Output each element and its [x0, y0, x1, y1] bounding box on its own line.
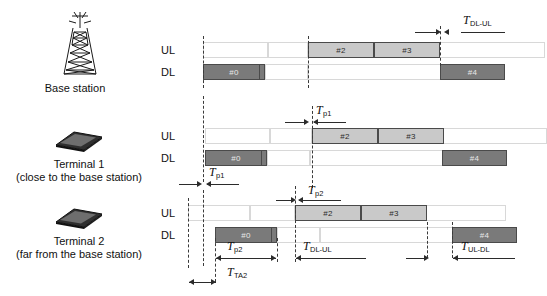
t-p1-upper-arrow-line	[285, 122, 305, 123]
block-divider	[261, 151, 262, 165]
t-p1-lower-label: Tp1	[209, 166, 224, 180]
t2-dl-block-0: #0	[215, 227, 277, 243]
t-p2-lower-span-line	[216, 258, 276, 259]
bs-dl-block-4: #4	[440, 64, 505, 80]
t-subscript: p2	[234, 245, 242, 254]
mobile-phone-icon	[50, 205, 108, 231]
block-label: #2	[336, 46, 345, 55]
terminal-2-sub: (far from the base station)	[0, 248, 158, 261]
t-p2-lower-arrowhead-right	[271, 255, 276, 261]
grid-cell	[250, 205, 295, 221]
block-divider	[259, 65, 260, 79]
t2-ul-block-3: #3	[361, 205, 427, 221]
t-ta2-label: TTA2	[227, 266, 247, 280]
t-p2-upper-arrowhead-left	[298, 197, 303, 203]
t-p1-lower-arrowhead-right	[197, 181, 202, 187]
t-p2-lower-arrowhead-left	[216, 255, 221, 261]
t-p1-upper-arrowhead-left	[313, 119, 318, 125]
t-ta2-arrowhead-right	[211, 279, 216, 285]
block-label: #3	[406, 132, 415, 141]
bs-ul-row-label: UL	[161, 45, 175, 56]
t-ul-dl-gap-arrowhead	[424, 255, 429, 261]
t-p1-lower-arrowhead-left	[206, 181, 211, 187]
grid-cell	[308, 64, 443, 80]
bs-dl-block-0: #0	[203, 64, 265, 80]
block-label: #2	[323, 209, 332, 218]
t-p2-upper-arrowhead-right	[291, 197, 296, 203]
bs-ul-block-3: #3	[374, 42, 440, 58]
t-p2-upper-label: Tp2	[308, 184, 323, 198]
terminal-2-label: Terminal 2 (far from the base station)	[0, 235, 158, 261]
block-label: #4	[468, 68, 477, 77]
t-subscript: DL-UL	[470, 19, 492, 28]
t-dl-ul-top-label: TDL-UL	[463, 14, 491, 28]
t-subscript: p1	[216, 171, 224, 180]
t2-ul-row-label: UL	[161, 208, 175, 219]
t2-dl-row-label: DL	[161, 230, 175, 241]
t-symbol: T	[461, 239, 468, 253]
terminal-1-sub: (close to the base station)	[0, 171, 158, 184]
t1-dl-block-4: #4	[442, 150, 507, 166]
base-station-name: Base station	[0, 82, 150, 95]
guide-t2-ul-end	[427, 222, 428, 258]
block-label: #3	[389, 209, 398, 218]
bs-dl-row-label: DL	[161, 67, 175, 78]
t-symbol: T	[316, 103, 323, 117]
t1-ul-block-2: #2	[312, 128, 378, 144]
block-label: #3	[402, 46, 411, 55]
t-dl-ul-top-arrow-line	[415, 32, 437, 33]
grid-cell	[267, 150, 310, 166]
grid-cell	[203, 42, 268, 58]
t-subscript: p2	[315, 189, 323, 198]
t1-ul-row-label: UL	[161, 131, 175, 142]
t-p1-lower-underline	[207, 184, 239, 185]
t2-ul-block-2: #2	[295, 205, 361, 221]
terminal-1-name: Terminal 1	[0, 158, 158, 171]
t-subscript: p1	[323, 109, 331, 118]
t-dl-ul-top-underline	[461, 32, 505, 33]
guide-t2-dl4-start	[452, 222, 453, 258]
block-label: #0	[229, 68, 238, 77]
terminal-1-label: Terminal 1 (close to the base station)	[0, 158, 158, 184]
t-symbol: T	[303, 239, 310, 253]
block-label: #2	[340, 132, 349, 141]
t-ul-dl-bottom-span-line	[453, 258, 515, 259]
guide-t2-left-extreme	[188, 198, 189, 268]
t1-dl-row-label: DL	[161, 153, 175, 164]
t-p2-upper-underline	[299, 200, 341, 201]
terminal-2-name: Terminal 2	[0, 235, 158, 248]
base-station-label: Base station	[0, 82, 150, 95]
block-label: #0	[231, 154, 240, 163]
t-subscript: DL-UL	[310, 245, 332, 254]
t-symbol: T	[308, 183, 315, 197]
grid-cell	[270, 128, 312, 144]
t-p2-lower-label: Tp2	[227, 240, 242, 254]
block-label: #4	[470, 154, 479, 163]
t-p1-upper-label: Tp1	[316, 104, 331, 118]
t-ul-dl-gap-line	[406, 258, 426, 259]
grid-cell	[205, 128, 270, 144]
t-p2-upper-arrow-line	[276, 200, 292, 201]
t-p1-lower-arrow-line	[179, 184, 198, 185]
guide-bs-ul-start	[308, 36, 309, 88]
block-label: #0	[241, 231, 250, 240]
t-dl-ul-bottom-span-line	[296, 258, 366, 259]
t-dl-ul-top-arrowhead-left	[444, 29, 449, 35]
t-dl-ul-bottom-arrowhead-left	[296, 255, 301, 261]
t-p1-upper-underline	[314, 122, 346, 123]
bs-ul-block-2: #2	[308, 42, 374, 58]
guide-bs-frame-start-low	[203, 190, 204, 266]
t-symbol: T	[227, 265, 234, 279]
t-ul-dl-bottom-label: TUL-DL	[461, 240, 489, 254]
t-subscript: UL-DL	[468, 245, 490, 254]
t-ta2-arrowhead-left	[189, 279, 194, 285]
cell-tower-icon	[52, 8, 108, 78]
t-p1-upper-arrowhead-right	[304, 119, 309, 125]
grid-cell	[320, 227, 455, 243]
t-symbol: T	[227, 239, 234, 253]
t-dl-ul-top-arrowhead-right	[436, 29, 441, 35]
t-symbol: T	[209, 165, 216, 179]
t-symbol: T	[463, 13, 470, 27]
block-label: #4	[480, 231, 489, 240]
